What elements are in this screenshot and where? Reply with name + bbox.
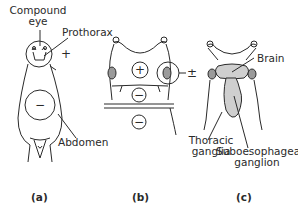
abdomen-pointer bbox=[58, 114, 76, 138]
panel-b-caption: (b) bbox=[132, 191, 149, 203]
head-circle bbox=[26, 41, 52, 67]
eye-sign: ± bbox=[187, 66, 197, 80]
panel-b-drawing bbox=[104, 37, 186, 135]
brain-label: Brain bbox=[257, 53, 285, 64]
compound-eye-label: Compound eye bbox=[6, 5, 70, 27]
panel-c-caption: (c) bbox=[236, 191, 252, 203]
eye-right-c-icon bbox=[248, 69, 256, 79]
prothorax-label: Prothorax bbox=[62, 27, 113, 38]
diagram-canvas: + − + ± − − bbox=[0, 0, 298, 213]
eye-left-c-icon bbox=[208, 69, 216, 79]
compound-eye-label-line2: eye bbox=[6, 16, 70, 27]
thoracic-ganglia-shape bbox=[224, 78, 242, 117]
suboesophageal-ganglion-label: Suboesophageal ganglion bbox=[216, 146, 298, 168]
abdomen-sign: − bbox=[35, 98, 45, 112]
thorax-sign: + bbox=[135, 63, 145, 77]
panel-a-caption: (a) bbox=[31, 191, 48, 203]
segment2-sign: − bbox=[134, 115, 144, 129]
eye-right-icon bbox=[163, 67, 171, 79]
eye-left-icon bbox=[108, 67, 116, 79]
segment1-sign: − bbox=[134, 88, 144, 102]
abdomen-label: Abdomen bbox=[58, 137, 108, 148]
suboeso-label-line2: ganglion bbox=[216, 157, 298, 168]
head-sign: + bbox=[61, 47, 71, 61]
panel-c-drawing bbox=[204, 41, 262, 148]
